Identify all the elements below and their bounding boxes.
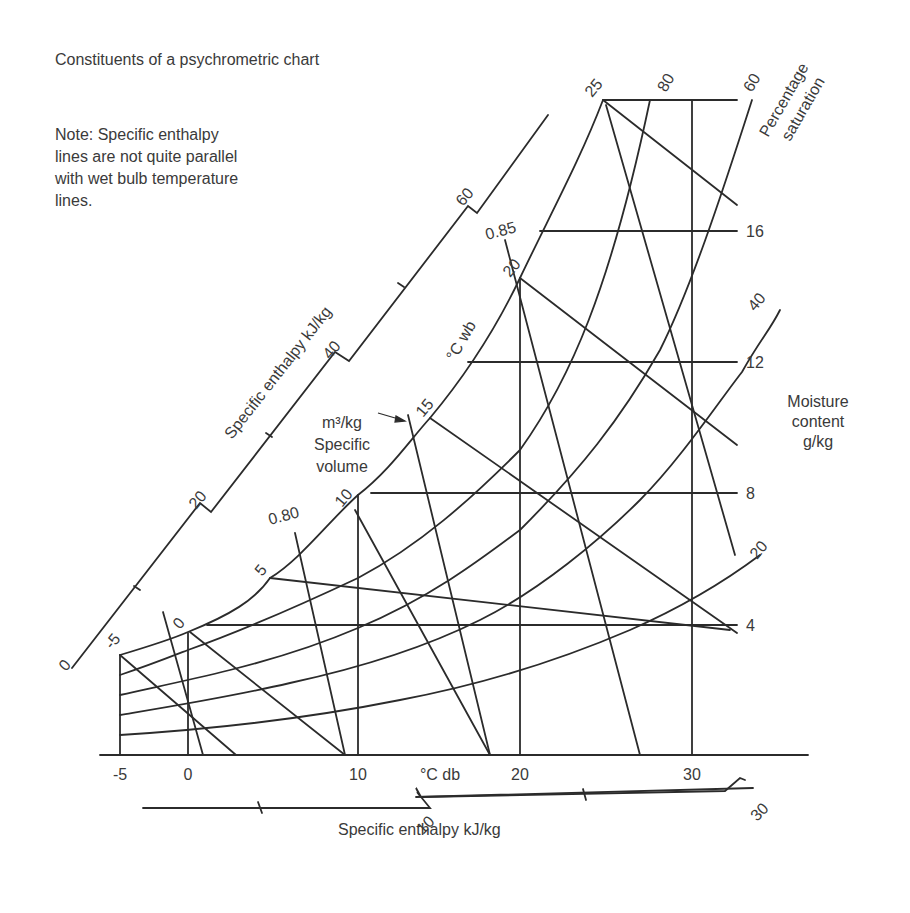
wb-tick-label: 0 [169,614,188,632]
enth-bottom-tick-label: 10 [413,812,438,837]
moisture-tick-label: 4 [746,617,755,634]
vol-tick-label: 0.80 [266,503,301,528]
wb-tick-label: 25 [581,75,606,100]
wb-line--5 [120,655,236,755]
db-tick-label: 0 [184,766,193,783]
enth-bottom-tick-label: 30 [747,799,772,824]
enth-diag-tick-label: 60 [452,184,477,209]
vol-tick-label: 0.85 [483,218,518,243]
saturation-curve-100 [120,100,603,655]
enth-tick [398,283,404,287]
db-tick-label: 30 [683,766,701,783]
moisture-tick-label: 12 [746,354,764,371]
sat-tick-label: 20 [746,537,771,562]
db-tick-label: -5 [113,766,127,783]
arrow-head-icon [395,416,405,422]
enthalpy-diagonal-scale [72,115,548,668]
wb-line-25 [603,100,737,205]
sat-tick-label: 40 [744,289,769,314]
volume-line-b [408,415,490,755]
db-axis-title: °C db [420,766,460,783]
wb-tick-label: 10 [331,485,356,510]
enth-diag-tick-label: 40 [319,337,344,362]
wb-tick-label: -5 [101,630,123,652]
saturation-curve-80 [120,100,650,675]
wb-tick-label: 15 [412,395,437,420]
psychrometric-chart: -5 0 10 °C db 20 30 4 8 12 16 -5 0 5 10 … [0,0,910,913]
wb-line-5 [270,578,730,630]
sat-tick-label: 80 [654,70,678,94]
moisture-tick-label: 8 [746,485,755,502]
enth-diag-tick-label: 0 [55,656,74,674]
volume-line-085 [505,240,640,755]
db-tick-label: 20 [511,766,529,783]
wb-tick-label: 5 [251,561,270,579]
wb-line-10 [355,510,490,755]
enth-diag-axis-title: Specific enthalpy kJ/kg [221,303,335,442]
saturation-curve-60 [120,100,752,695]
db-tick-label: 10 [349,766,367,783]
sat-tick-label: 60 [740,70,764,94]
wb-axis-title: °C wb [443,318,479,364]
moisture-tick-label: 16 [746,223,764,240]
volume-line-c [606,105,735,555]
